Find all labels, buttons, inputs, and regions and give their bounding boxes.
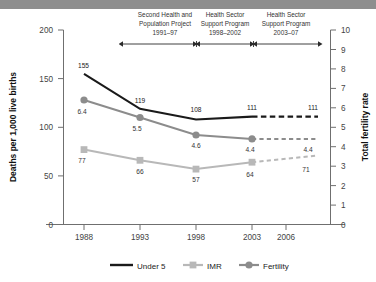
annotation-health-sector-support-program-2003-07: Health Sector Support Program 2003–07 — [262, 11, 311, 36]
datalabel-under5-2003: 111 — [247, 104, 257, 111]
annotation-1-line3: 1998–2002 — [209, 29, 241, 36]
x-tick-1988: 1988 — [75, 233, 94, 242]
fertility-marker — [192, 131, 199, 138]
right-tick-10: 10 — [341, 26, 351, 35]
right-tick-7: 7 — [341, 84, 346, 93]
legend-label-imr: IMR — [207, 262, 222, 271]
x-tick-1998: 1998 — [187, 233, 206, 242]
legend-item-under5[interactable]: Under 5 — [110, 262, 166, 271]
datalabel-fertility-1988: 6.4 — [77, 108, 86, 115]
right-tick-0: 0 — [341, 221, 346, 230]
datalabel-under5-1998: 108 — [190, 106, 201, 113]
datalabel-under5-1993: 119 — [135, 97, 146, 104]
annotation-health-sector-support-program-1998-2002: Health Sector Support Program 1998–2002 — [201, 11, 250, 36]
left-tick-50: 50 — [44, 172, 54, 181]
bottom-axis-ticks — [84, 225, 286, 231]
x-tick-2003: 2003 — [243, 233, 262, 242]
datalabel-imr-1993: 66 — [136, 168, 144, 175]
series-imr-dashed — [252, 156, 318, 163]
series-fertility-solid — [84, 100, 252, 139]
left-axis-ticks — [58, 30, 64, 225]
datalabel-fertility-2003: 4.4 — [245, 146, 254, 153]
datalabel-fertility-2006: 4.4 — [303, 146, 312, 153]
datalabel-fertility-1993: 5.5 — [132, 125, 141, 132]
legend-item-imr[interactable]: IMR — [183, 262, 222, 271]
annotation-1-line1: Health Sector — [206, 11, 246, 18]
right-tick-3: 3 — [341, 162, 346, 171]
right-axis-title: Total fertility rate — [360, 93, 370, 162]
series-fertility-markers — [80, 96, 255, 142]
annotation-2-line2: Support Program — [262, 20, 311, 28]
left-tick-150: 150 — [39, 75, 53, 84]
annotation-second-health-population-project: Second Health and Population Project 199… — [138, 11, 193, 36]
left-axis-title: Deaths per 1,000 live births — [8, 72, 18, 182]
legend-marker-imr — [190, 262, 197, 269]
series-imr-markers — [81, 146, 256, 172]
left-tick-100: 100 — [39, 123, 53, 132]
datalabel-under5-2006: 111 — [308, 104, 318, 111]
annotation-1-line2: Support Program — [201, 20, 250, 28]
right-tick-9: 9 — [341, 46, 346, 55]
datalabel-under5-1988: 155 — [78, 62, 89, 69]
x-tick-1993: 1993 — [131, 233, 150, 242]
left-tick-200: 200 — [39, 26, 53, 35]
fertility-marker — [248, 135, 255, 142]
right-tick-4: 4 — [341, 143, 346, 152]
imr-marker — [81, 146, 88, 153]
right-tick-8: 8 — [341, 65, 346, 74]
annotation-0-line1: Second Health and — [138, 11, 193, 18]
imr-marker — [249, 159, 256, 166]
datalabel-imr-1988: 77 — [78, 157, 86, 164]
right-tick-5: 5 — [341, 123, 346, 132]
fertility-marker — [80, 96, 87, 103]
datalabel-imr-1998: 57 — [192, 176, 200, 183]
legend-label-fertility: Fertility — [263, 262, 289, 271]
imr-marker — [137, 157, 144, 164]
annotation-2-line1: Health Sector — [267, 11, 307, 18]
right-tick-1: 1 — [341, 201, 346, 210]
series-under5-solid — [84, 74, 252, 120]
right-tick-2: 2 — [341, 182, 346, 191]
x-tick-2006: 2006 — [277, 233, 296, 242]
annotation-2-line3: 2003–07 — [274, 29, 299, 36]
chart-figure: 0 50 100 150 200 Deaths per 1,000 live b… — [0, 0, 376, 282]
legend-marker-fertility — [245, 261, 252, 268]
left-tick-0: 0 — [48, 221, 53, 230]
imr-marker — [193, 166, 200, 173]
datalabel-imr-2006: 71 — [302, 166, 310, 173]
legend-item-fertility[interactable]: Fertility — [239, 261, 289, 270]
annotation-0-line2: Population Project — [139, 20, 191, 28]
right-axis-ticks — [331, 30, 337, 225]
legend: Under 5 IMR Fertility — [110, 261, 289, 270]
legend-label-under5: Under 5 — [137, 262, 166, 271]
fertility-marker — [136, 114, 143, 121]
datalabel-imr-2003: 64 — [246, 171, 254, 178]
annotation-0-line3: 1991–97 — [153, 29, 178, 36]
series-imr-solid — [84, 150, 252, 170]
datalabel-fertility-1998: 4.6 — [191, 142, 200, 149]
right-tick-6: 6 — [341, 104, 346, 113]
annotation-span-arrows — [123, 41, 318, 47]
